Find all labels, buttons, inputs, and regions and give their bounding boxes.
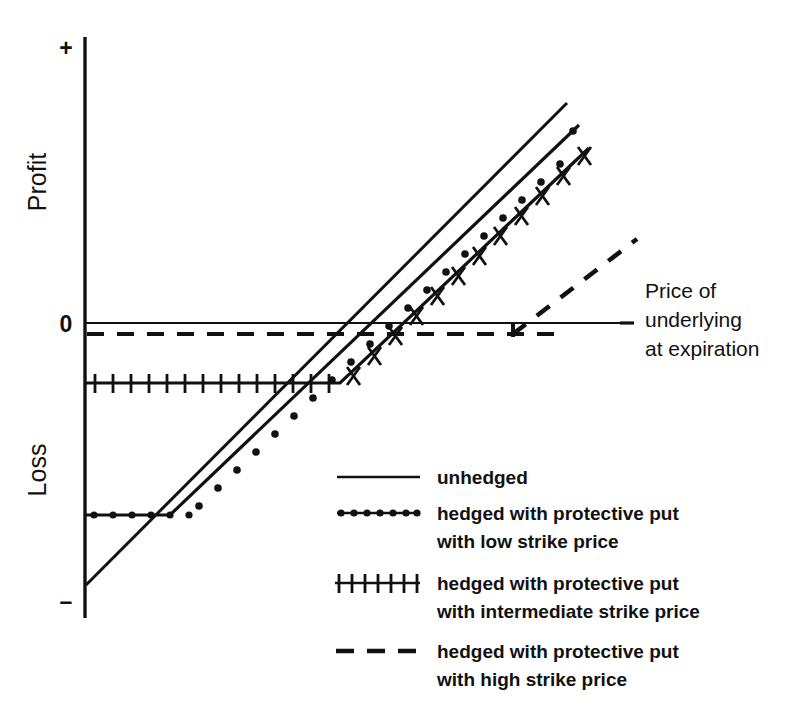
y-tick-zero-label: 0 — [60, 311, 73, 337]
y-tick-minus-label: – — [60, 588, 73, 614]
legend-entry-unhedged: unhedged — [337, 467, 528, 488]
legend-label-high-strike-line2: with high strike price — [436, 669, 627, 690]
legend-entry-low-strike: hedged with protective put with low stri… — [337, 503, 679, 552]
legend-label-low-strike-line1: hedged with protective put — [437, 503, 679, 524]
intermediate-strike-payoff-line — [86, 148, 589, 383]
legend-label-intermediate-strike-line1: hedged with protective put — [437, 573, 679, 594]
low-strike-payoff-line — [86, 125, 579, 515]
high-strike-rising-segment — [513, 239, 637, 334]
x-axis-label-line1: Price of — [645, 279, 716, 302]
legend-label-low-strike-line2: with low strike price — [436, 531, 619, 552]
x-axis-label-block: Price of underlying at expiration — [645, 279, 759, 360]
legend-swatch-plus-markers-icon — [339, 574, 417, 593]
legend-label-high-strike-line1: hedged with protective put — [437, 641, 679, 662]
y-tick-plus-label: + — [59, 35, 72, 61]
x-axis-label-line3: at expiration — [645, 337, 759, 360]
legend: unhedged hedged with protective put with… — [335, 467, 700, 690]
x-axis-label-line2: underlying — [645, 308, 742, 331]
chart-canvas: + 0 – Profit Loss Price of underlying at… — [0, 0, 799, 718]
payoff-diagram-figure: + 0 – Profit Loss Price of underlying at… — [0, 0, 799, 718]
legend-label-intermediate-strike-line2: with intermediate strike price — [436, 601, 700, 622]
legend-entry-high-strike: hedged with protective put with high str… — [336, 641, 679, 690]
y-axis-profit-label: Profit — [23, 153, 51, 211]
legend-label-unhedged-line1: unhedged — [437, 467, 528, 488]
legend-entry-intermediate-strike: hedged with protective put with intermed… — [335, 573, 700, 622]
y-axis-loss-label: Loss — [23, 444, 51, 497]
series-low-strike-dotted — [86, 125, 579, 519]
